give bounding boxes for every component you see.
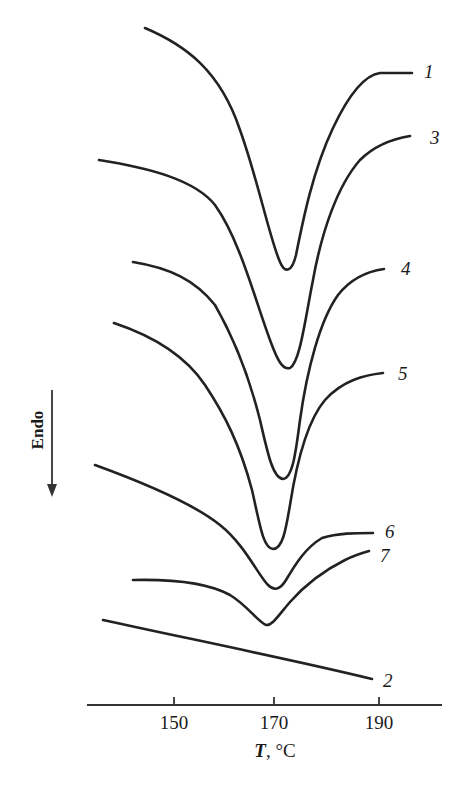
curve-3 [99, 136, 410, 368]
curve-label-4: 4 [401, 258, 411, 280]
x-tick-label-150: 150 [144, 712, 204, 734]
curve-label-2: 2 [383, 670, 393, 692]
curve-5 [114, 323, 383, 549]
x-axis-unit: , °C [266, 740, 296, 761]
curve-label-1: 1 [424, 61, 434, 83]
x-tick-label-190: 190 [349, 712, 409, 734]
x-axis-title: T, °C [220, 740, 330, 762]
x-axis-symbol: T [254, 740, 266, 761]
endo-arrow-head-icon [47, 484, 57, 497]
curve-4 [133, 262, 384, 479]
curve-label-5: 5 [398, 363, 408, 385]
endo-label: Endo [28, 402, 48, 458]
curve-2 [103, 620, 372, 679]
x-tick-label-170: 170 [244, 712, 304, 734]
curve-6 [95, 465, 373, 589]
curve-label-6: 6 [385, 521, 395, 543]
curve-label-3: 3 [430, 127, 440, 149]
curve-label-7: 7 [380, 545, 390, 567]
dsc-chart [0, 0, 466, 794]
